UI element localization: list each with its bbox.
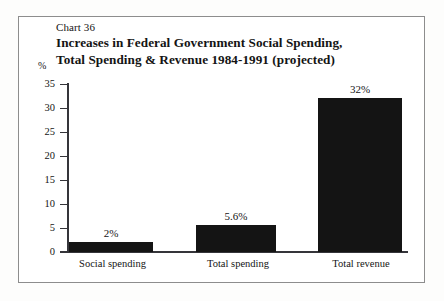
y-axis-tick-label: 5 [35, 222, 55, 233]
y-axis-tick-label: 30 [35, 102, 55, 113]
y-axis-tick [60, 180, 67, 181]
x-axis-category-label: Total spending [188, 257, 288, 270]
y-axis-tick-label: 20 [35, 150, 55, 161]
chart-title-line-1: Increases in Federal Government Social S… [56, 34, 342, 51]
y-axis-tick [60, 204, 67, 205]
y-axis-unit-label: % [38, 60, 46, 72]
bar [318, 98, 402, 252]
y-axis-tick-label: 10 [35, 198, 55, 209]
x-axis-category-label: Social spending [60, 257, 165, 270]
bar-value-label: 32% [318, 83, 402, 95]
x-axis-category-label: Total revenue [310, 257, 412, 270]
y-axis-tick [60, 108, 67, 109]
y-axis-tick [60, 84, 67, 85]
chart-number-caption: Chart 36 [56, 21, 95, 34]
y-axis-tick [60, 252, 67, 253]
bar [196, 225, 276, 252]
y-axis-tick [60, 132, 67, 133]
y-axis-tick [60, 228, 67, 229]
chart-title: Increases in Federal Government Social S… [56, 34, 342, 68]
bar [69, 242, 153, 252]
y-axis-tick-label: 15 [35, 174, 55, 185]
chart-figure: Chart 36 Increases in Federal Government… [0, 0, 444, 301]
bar-value-label: 5.6% [196, 210, 276, 222]
y-axis-tick-label: 25 [35, 126, 55, 137]
bar-value-label: 2% [69, 227, 153, 239]
y-axis-tick [60, 156, 67, 157]
y-axis-tick-label: 35 [35, 78, 55, 89]
y-axis-tick-label: 0 [35, 246, 55, 257]
chart-title-line-2: Total Spending & Revenue 1984-1991 (proj… [56, 51, 342, 68]
